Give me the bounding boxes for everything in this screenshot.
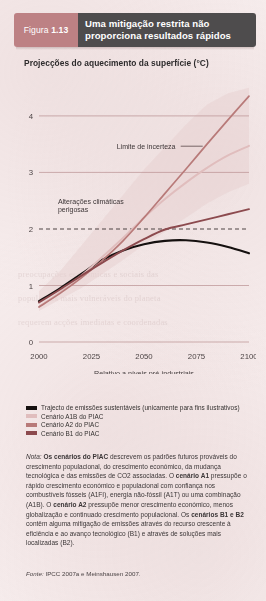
chart-svg: 0123420002025205020752100Relativo a níve… (12, 74, 256, 374)
note-bold-b1-b2: cenários B1 e B2 (191, 511, 244, 518)
source-label: Fonte: (26, 570, 44, 577)
chart-legend: Trajecto de emissões sustentáveis (unica… (26, 404, 258, 438)
note-text-4: contêm alguma mitigação de emissões atra… (26, 520, 231, 546)
x-tick-2025: 2025 (83, 352, 101, 361)
x-tick-2100: 2100 (240, 352, 256, 361)
note-bold-ipcc-scenarios: Os cenários do PIAC (43, 453, 108, 460)
annotation-dangerous-climate-line1: Alterações climáticas (58, 198, 124, 206)
legend-item-a1b: Cenário A1B do PIAC (26, 413, 258, 420)
x-tick-2050: 2050 (135, 352, 153, 361)
y-tick-4: 4 (29, 112, 34, 121)
y-tick-2: 2 (29, 225, 33, 234)
legend-label-b1: Cenário B1 do PIAC (41, 430, 99, 437)
x-tick-2000: 2000 (30, 352, 48, 361)
legend-label-a1b: Cenário A1B do PIAC (41, 413, 103, 420)
legend-swatch-sustainable (26, 406, 37, 410)
figure-tag-prefix: Figura (24, 25, 49, 35)
chart-title: Projecções do aquecimento da superfície … (24, 58, 209, 68)
x-axis-label: Relativo a níveis pré-industriais (94, 369, 194, 374)
figure-banner: Figura 1.13 Uma mitigação restrita não p… (14, 13, 256, 47)
note-bold-a1: cenário A1 (176, 472, 209, 479)
legend-swatch-a1b (26, 414, 37, 418)
legend-item-sustainable: Trajecto de emissões sustentáveis (unica… (26, 404, 258, 411)
annotation-dangerous-climate-line2: perigosas (58, 206, 89, 214)
legend-swatch-a2 (26, 423, 37, 427)
figure-page: preocupações económicas e sociais das po… (0, 0, 266, 601)
figure-source: Fonte: IPCC 2007a e Meinshausen 2007. (26, 570, 254, 577)
note-label: Nota: (26, 453, 42, 460)
legend-label-sustainable: Trajecto de emissões sustentáveis (unica… (41, 404, 240, 411)
banner-dropshadow (16, 47, 254, 50)
annotation-uncertainty-limit: Limite de incerteza (117, 143, 176, 150)
figure-note: Nota: Os cenários do PIAC descrevem os p… (26, 452, 254, 548)
legend-item-b1: Cenário B1 do PIAC (26, 430, 258, 437)
figure-number: 1.13 (51, 25, 68, 35)
figure-number-tag: Figura 1.13 (14, 13, 78, 47)
legend-label-a2: Cenário A2 do PIAC (41, 421, 99, 428)
figure-title: Uma mitigação restrita não proporciona r… (78, 13, 256, 47)
note-bold-a2: cenário A2 (53, 501, 86, 508)
y-tick-1: 1 (29, 282, 33, 291)
legend-swatch-b1 (26, 431, 37, 435)
y-tick-3: 3 (29, 168, 33, 177)
x-tick-2075: 2075 (188, 352, 206, 361)
legend-item-a2: Cenário A2 do PIAC (26, 421, 258, 428)
chart-plot-area: 0123420002025205020752100Relativo a níve… (12, 74, 256, 374)
y-tick-0: 0 (29, 338, 34, 347)
source-text: IPCC 2007a e Meinshausen 2007. (44, 570, 141, 577)
